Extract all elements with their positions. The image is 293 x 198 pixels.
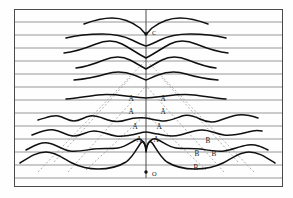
- figure-background: [0, 0, 293, 198]
- label-b-3: B: [194, 164, 199, 172]
- point-c-label: C: [152, 29, 156, 36]
- label-a-1-right: A: [160, 95, 166, 103]
- point-o-label: O: [152, 170, 157, 177]
- label-a-4-right: A: [153, 136, 159, 144]
- figure-canvas: CO AAAAAAAABBBB: [0, 0, 293, 198]
- label-a-3-right: A: [156, 123, 162, 131]
- point-c-dot: [144, 32, 147, 35]
- label-a-1-left: A: [128, 95, 134, 103]
- label-b-2-right: B: [212, 150, 217, 158]
- label-a-2-right: A: [160, 108, 166, 116]
- figure-container: CO AAAAAAAABBBB: [0, 0, 293, 198]
- label-a-2-left: A: [128, 108, 134, 116]
- label-a-3-left: A: [132, 123, 138, 131]
- label-a-4-left: A: [136, 136, 142, 144]
- label-b-1: B: [206, 137, 211, 145]
- label-b-2-left: B: [195, 150, 200, 158]
- point-o-dot: [144, 170, 147, 173]
